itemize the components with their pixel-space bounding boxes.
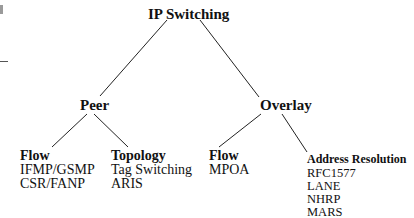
- leaf-peer-topology-heading: Topology: [111, 149, 166, 163]
- node-root: IP Switching: [148, 7, 229, 22]
- leaf-item: Tag Switching: [111, 163, 192, 177]
- leaf-peer-flow-heading: Flow: [20, 149, 50, 163]
- leaf-item: ARIS: [111, 177, 143, 191]
- node-peer: Peer: [80, 98, 109, 113]
- leaf-item: CSR/FANP: [20, 177, 85, 191]
- edge-root-peer: [100, 20, 167, 96]
- edge-overlay-address: [282, 114, 307, 152]
- edge-peer-topology: [94, 114, 128, 147]
- leaf-item: MPOA: [209, 163, 249, 177]
- edge-root-overlay: [200, 20, 259, 97]
- leaf-item: RFC1577: [307, 167, 356, 180]
- edge-peer-flow: [52, 114, 87, 147]
- node-overlay: Overlay: [260, 98, 312, 113]
- leaf-overlay-flow-heading: Flow: [209, 149, 239, 163]
- leaf-item: NHRP: [307, 193, 340, 206]
- leaf-item: IFMP/GSMP: [20, 163, 95, 177]
- edge-overlay-flow: [219, 114, 261, 147]
- leaf-item: MARS: [307, 206, 342, 218]
- leaf-item: LANE: [307, 180, 340, 193]
- leaf-overlay-address-heading: Address Resolution: [307, 153, 406, 165]
